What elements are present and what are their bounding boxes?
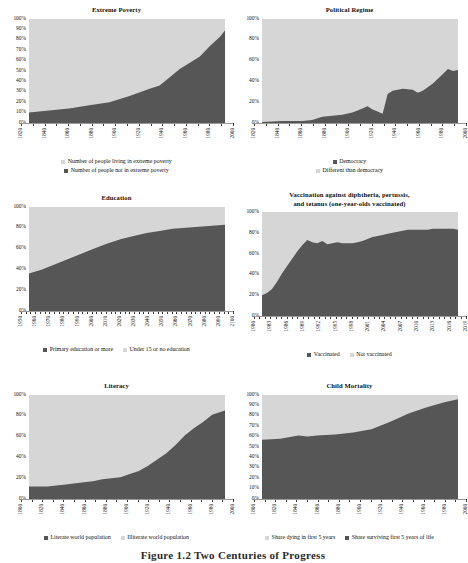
y-tick-label: 100% — [13, 16, 26, 21]
x-tick-label: 1820 — [18, 128, 23, 138]
chart-title: Literacy — [0, 376, 233, 391]
plot-canvas — [262, 19, 458, 123]
x-tick — [466, 499, 467, 502]
x-tick-label: 1960 — [421, 504, 426, 514]
chart-title: Child Mortality — [233, 376, 466, 391]
y-tick-label: 100% — [246, 392, 259, 397]
chart-legend: VaccinatedNot vaccinated — [233, 350, 466, 359]
x-axis-labels: 1980198319861989199219951998200120042007… — [254, 321, 466, 351]
legend-item: Primary education or more — [43, 345, 113, 354]
y-tick-label: 90% — [16, 26, 26, 31]
x-tick-label: 1960 — [416, 128, 421, 138]
figure-caption: Figure 1.2 Two Centuries of Progress — [0, 550, 466, 563]
legend-label: Share surviving first 5 years of life — [352, 534, 434, 540]
x-tick-label: 1800 — [18, 504, 23, 514]
x-tick-label: 2050 — [159, 316, 164, 326]
legend-item: Share dying in first 5 years — [265, 533, 335, 542]
x-tick-label: 1880 — [336, 504, 341, 514]
x-tick-label: 1860 — [82, 504, 87, 514]
legend-swatch-icon — [345, 536, 349, 540]
y-axis-labels: 100%90%80%70%60%50%40%30%20%10%0% — [241, 395, 261, 499]
y-axis-labels: 100%80%60%40%20%0% — [8, 207, 28, 311]
x-tick-label: 1880 — [322, 128, 327, 138]
chart-extreme-poverty: Extreme Poverty 100%90%80%70%60%50%40%30… — [0, 0, 233, 188]
plot-canvas — [29, 207, 225, 311]
y-tick-label: 20% — [249, 292, 259, 297]
x-tick-label: 1940 — [159, 128, 164, 138]
chart-title: Education — [0, 188, 233, 203]
x-tick-label: 1989 — [300, 321, 305, 331]
legend-label: Different than democracy — [323, 167, 383, 173]
x-tick-label: 2001 — [365, 321, 370, 331]
y-tick-label: 20% — [16, 287, 26, 292]
y-tick-label: 20% — [16, 99, 26, 104]
x-tick-label: 1840 — [293, 504, 298, 514]
x-tick-label: 1980 — [209, 504, 214, 514]
y-axis-labels: 100%90%80%70%60%50%40%30%20%10%0% — [8, 19, 28, 123]
y-tick-label: 10% — [249, 485, 259, 490]
legend-label: Under 15 or no education — [130, 346, 190, 352]
x-tick-label: 1840 — [275, 128, 280, 138]
x-tick-label: 2040 — [145, 316, 150, 326]
x-tick-label: 1820 — [251, 128, 256, 138]
y-tick-label: 60% — [249, 57, 259, 62]
plot-area: 100%90%80%70%60%50%40%30%20%10%0% — [8, 19, 225, 123]
x-tick-label: 1800 — [251, 504, 256, 514]
legend-swatch-icon — [265, 536, 269, 540]
x-tick-label: 1960 — [188, 504, 193, 514]
x-tick-label: 1980 — [442, 504, 447, 514]
x-tick-label: 2010 — [103, 316, 108, 326]
legend-item: Share surviving first 5 years of life — [345, 533, 434, 542]
y-tick-label: 60% — [16, 245, 26, 250]
x-tick-label: 2030 — [131, 316, 136, 326]
y-tick-label: 20% — [249, 475, 259, 480]
x-tick-label: 1980 — [60, 316, 65, 326]
y-axis-labels: 100%80%60%40%20%0% — [8, 395, 28, 499]
x-tick-label: 1860 — [65, 128, 70, 138]
chart-education: Education 100%80%60%40%20%0% 19501960197… — [0, 188, 233, 376]
legend-swatch-icon — [121, 536, 125, 540]
y-tick-label: 100% — [246, 16, 259, 21]
x-axis-line — [254, 316, 466, 317]
x-tick-label: 1960 — [183, 128, 188, 138]
x-tick-label: 1840 — [60, 504, 65, 514]
legend-item: Vaccinated — [307, 350, 339, 359]
legend-label: Number of people living in extreme pover… — [68, 158, 172, 164]
x-axis-line — [254, 123, 466, 124]
y-tick-label: 40% — [16, 266, 26, 271]
y-tick-label: 80% — [249, 413, 259, 418]
x-tick-label: 1900 — [357, 504, 362, 514]
chart-literacy: Literacy 100%80%60%40%20%0% 180018201840… — [0, 376, 233, 548]
y-tick-label: 80% — [16, 37, 26, 42]
x-tick-label: 1998 — [349, 321, 354, 331]
legend-item: Different than democracy — [316, 166, 383, 175]
legend-item: Number of people living in extreme pover… — [61, 157, 172, 166]
legend-label: Illiterate world population — [127, 534, 189, 540]
x-tick-label: 1860 — [298, 128, 303, 138]
y-tick-label: 100% — [13, 204, 26, 209]
chart-legend: DemocracyDifferent than democracy — [233, 157, 466, 175]
x-tick-label: 1960 — [32, 316, 37, 326]
x-axis-line — [21, 123, 233, 124]
x-tick-label: 1980 — [251, 321, 256, 331]
x-tick-label: 1986 — [284, 321, 289, 331]
y-tick-label: 30% — [16, 89, 26, 94]
legend-item: Under 15 or no education — [123, 345, 190, 354]
chart-title-line: Vaccination against diphtheria, pertussi… — [233, 191, 466, 200]
x-tick-label: 2070 — [188, 316, 193, 326]
x-axis-line — [21, 499, 233, 500]
legend-label: Democracy — [339, 158, 366, 164]
plot-canvas — [29, 395, 225, 499]
plot-area: 100%90%80%70%60%50%40%30%20%10%0% — [241, 395, 458, 499]
x-tick-label: 1980 — [439, 128, 444, 138]
legend-label: Literate world population — [50, 534, 110, 540]
figure-caption-text: Figure 1.2 Two Centuries of Progress — [141, 550, 326, 561]
y-tick-label: 80% — [16, 413, 26, 418]
x-tick-label: 2000 — [463, 504, 468, 514]
plot-area: 100%80%60%40%20%0% — [241, 19, 458, 123]
y-tick-label: 90% — [249, 402, 259, 407]
x-tick-label: 2010 — [414, 321, 419, 331]
legend-item: Literate world population — [44, 533, 111, 542]
y-tick-label: 50% — [16, 68, 26, 73]
